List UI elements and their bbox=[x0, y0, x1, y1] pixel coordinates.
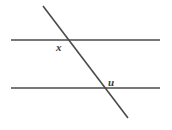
diagram-canvas bbox=[0, 0, 172, 130]
angle-label-u: u bbox=[108, 77, 114, 88]
transversal-line bbox=[43, 6, 128, 118]
geometry-figure: x u bbox=[0, 0, 172, 130]
angle-label-x: x bbox=[56, 42, 62, 53]
